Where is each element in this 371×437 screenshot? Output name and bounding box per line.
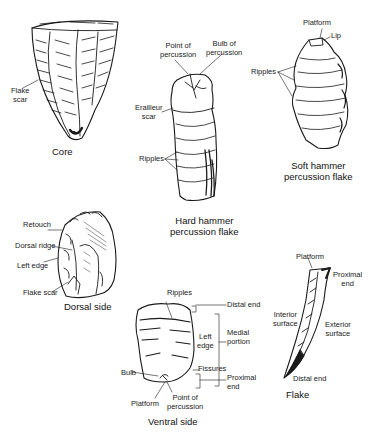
vs-platform-label: Platform	[131, 400, 159, 409]
vs-caption: Ventral side	[148, 416, 198, 427]
label-line: percussion	[206, 49, 242, 58]
label-line: percussion	[167, 403, 203, 412]
label-line: scar	[11, 96, 29, 105]
ds-retouch-label: Retouch	[23, 221, 51, 230]
core-flake-scar-label: Flake scar	[11, 87, 29, 104]
label-line: end	[227, 383, 256, 392]
caption-line: Hard hammer	[170, 215, 239, 226]
label-line: end	[333, 280, 362, 289]
hh-ripples-label: Ripples	[139, 155, 164, 164]
label-line: surface	[273, 320, 298, 329]
label-line: portion	[227, 338, 250, 347]
fl-exterior-surface-label: Exterior surface	[325, 321, 351, 338]
label-line: edge	[197, 342, 214, 351]
hh-point-of-percussion-label: Point of percussion	[160, 42, 196, 59]
sh-ripples-label: Ripples	[251, 68, 276, 77]
sh-lip-label: Lip	[331, 32, 341, 41]
sh-platform-label: Platform	[303, 19, 331, 28]
fl-interior-surface-label: Interior surface	[273, 311, 298, 328]
fl-platform-label: Platform	[296, 253, 324, 262]
label-line: scar	[135, 113, 163, 122]
hard-hammer-flake-drawing	[162, 54, 222, 201]
vs-point-of-percussion-label: Point of percussion	[167, 394, 203, 411]
vs-fissures-label: Fissures	[198, 365, 226, 374]
vs-proximal-end-label: Proximal end	[227, 374, 256, 391]
ds-dorsal-ridge-label: Dorsal ridge	[15, 242, 55, 251]
soft-hammer-flake-drawing	[278, 29, 348, 149]
label-line: percussion	[160, 51, 196, 60]
hh-bulb-of-percussion-label: Bulb of percussion	[206, 40, 242, 57]
fl-distal-end-label: Distal end	[293, 375, 326, 384]
vs-medial-portion-label: Medial portion	[227, 329, 250, 346]
hh-caption: Hard hammer percussion flake	[170, 215, 239, 237]
lithic-flake-diagram: Flake scar Core Point of percussion Bulb…	[0, 0, 371, 437]
ds-flake-scar-label: Flake scar	[23, 289, 58, 298]
sh-caption: Soft hammer percussion flake	[284, 160, 353, 182]
vs-distal-end-label: Distal end	[227, 301, 260, 310]
caption-line: percussion flake	[170, 226, 239, 237]
caption-line: percussion flake	[284, 171, 353, 182]
dorsal-side-drawing	[44, 212, 116, 298]
ds-left-edge-label: Left edge	[17, 262, 48, 271]
ds-caption: Dorsal side	[64, 301, 112, 312]
fl-caption: Flake	[286, 389, 309, 400]
vs-ripples-label: Ripples	[167, 289, 192, 298]
fl-proximal-end-label: Proximal end	[333, 271, 362, 288]
hh-erailleur-scar-label: Erailleur scar	[135, 104, 163, 121]
caption-line: Soft hammer	[284, 160, 353, 171]
core-drawing	[23, 21, 118, 140]
vs-left-edge-label: Left edge	[197, 333, 214, 350]
vs-bulb-label: Bulb	[121, 369, 136, 378]
label-line: surface	[325, 330, 351, 339]
core-caption: Core	[52, 146, 73, 157]
ventral-side-drawing	[132, 302, 226, 398]
